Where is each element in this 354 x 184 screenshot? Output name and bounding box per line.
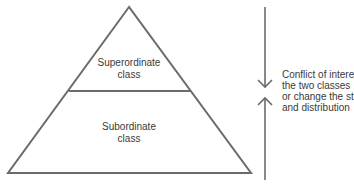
subordinate-class-label: Subordinate class <box>89 121 169 145</box>
superordinate-label-line2: class <box>89 69 169 81</box>
subordinate-label-line2: class <box>89 133 169 145</box>
down-arrow-icon <box>258 7 272 87</box>
conflict-annotation: Conflict of intere the two classes or ch… <box>282 69 354 113</box>
annotation-line-3: or change the st <box>282 91 354 102</box>
superordinate-class-label: Superordinate class <box>89 57 169 81</box>
up-arrow-icon <box>258 98 272 180</box>
annotation-line-4: and distribution <box>282 102 354 113</box>
annotation-line-1: Conflict of intere <box>282 69 354 80</box>
superordinate-label-line1: Superordinate <box>89 57 169 69</box>
annotation-line-2: the two classes <box>282 80 354 91</box>
subordinate-label-line1: Subordinate <box>89 121 169 133</box>
